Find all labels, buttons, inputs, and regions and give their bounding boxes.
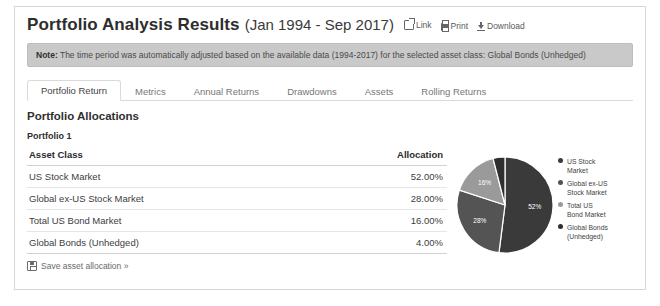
tab-rolling-returns[interactable]: Rolling Returns [407, 81, 500, 102]
tab-portfolio-return[interactable]: Portfolio Return [27, 80, 121, 102]
link-action-label: Link [416, 20, 432, 30]
legend-label: Global Bonds(Unhedged) [567, 223, 608, 241]
note-prefix: Note: [36, 50, 58, 60]
header-actions: Link Print Download [404, 20, 525, 31]
tab-assets[interactable]: Assets [351, 81, 408, 102]
cell-allocation: 28.00% [319, 188, 447, 210]
column-header-asset-class: Asset Class [27, 145, 319, 166]
allocation-table: Asset Class Allocation US Stock Market 5… [27, 145, 447, 254]
page-title-date-range: (Jan 1994 - Sep 2017) [245, 16, 394, 33]
page-title: Portfolio Analysis Results [27, 15, 240, 35]
tab-annual-returns[interactable]: Annual Returns [180, 81, 273, 102]
legend-swatch-icon [558, 158, 563, 163]
legend-label: Global ex-USStock Market [567, 179, 607, 197]
table-row: US Stock Market 52.00% [27, 166, 447, 188]
pie-slice [499, 157, 553, 253]
table-row: Global ex-US Stock Market 28.00% [27, 188, 447, 210]
allocation-pie-chart: 52%28%16% US StockMarketGlobal ex-USStoc… [455, 147, 655, 277]
table-header-row: Asset Class Allocation [27, 145, 447, 166]
tab-bar: Portfolio Return Metrics Annual Returns … [27, 77, 633, 101]
portfolio-label: Portfolio 1 [27, 131, 633, 141]
legend-swatch-icon [558, 180, 563, 185]
legend-item[interactable]: Total USBond Market [558, 201, 653, 219]
legend-label: US StockMarket [567, 157, 595, 175]
external-link-icon [404, 20, 414, 30]
legend-swatch-icon [558, 224, 563, 229]
download-action[interactable]: Download [477, 21, 525, 31]
tab-metrics[interactable]: Metrics [121, 81, 180, 102]
cell-asset-class: Global Bonds (Unhedged) [27, 232, 319, 254]
table-row: Total US Bond Market 16.00% [27, 210, 447, 232]
note-banner: Note: The time period was automatically … [27, 43, 633, 67]
pie-graphic: 52%28%16% [455, 155, 555, 259]
cell-allocation: 4.00% [319, 232, 447, 254]
pie-slice-label: 28% [473, 217, 486, 224]
pie-svg: 52%28%16% [455, 155, 555, 255]
panel-header: Portfolio Analysis Results (Jan 1994 - S… [15, 7, 645, 41]
download-action-label: Download [487, 21, 525, 31]
tab-drawdowns[interactable]: Drawdowns [273, 81, 351, 102]
cell-asset-class: Total US Bond Market [27, 210, 319, 232]
cell-asset-class: US Stock Market [27, 166, 319, 188]
print-action-label: Print [451, 21, 468, 31]
legend-label: Total USBond Market [567, 201, 606, 219]
column-header-allocation: Allocation [319, 145, 447, 166]
save-asset-allocation-link[interactable]: Save asset allocation » [41, 261, 128, 271]
pie-slice-label: 52% [528, 203, 541, 210]
printer-icon [441, 23, 449, 31]
legend-swatch-icon [558, 202, 563, 207]
legend-item[interactable]: US StockMarket [558, 157, 653, 175]
legend-item[interactable]: Global ex-USStock Market [558, 179, 653, 197]
cell-asset-class: Global ex-US Stock Market [27, 188, 319, 210]
page-root: Portfolio Analysis Results (Jan 1994 - S… [0, 0, 660, 306]
cell-allocation: 16.00% [319, 210, 447, 232]
cell-allocation: 52.00% [319, 166, 447, 188]
print-action[interactable]: Print [441, 21, 468, 31]
section-title: Portfolio Allocations [27, 110, 633, 122]
note-text: The time period was automatically adjust… [58, 50, 586, 60]
link-action[interactable]: Link [404, 20, 432, 30]
results-panel: Portfolio Analysis Results (Jan 1994 - S… [14, 6, 646, 290]
save-disk-icon [27, 261, 37, 271]
legend-item[interactable]: Global Bonds(Unhedged) [558, 223, 653, 241]
chart-legend: US StockMarketGlobal ex-USStock MarketTo… [558, 157, 653, 244]
table-row: Global Bonds (Unhedged) 4.00% [27, 232, 447, 254]
pie-slice-label: 16% [478, 179, 491, 186]
download-icon [477, 22, 485, 30]
